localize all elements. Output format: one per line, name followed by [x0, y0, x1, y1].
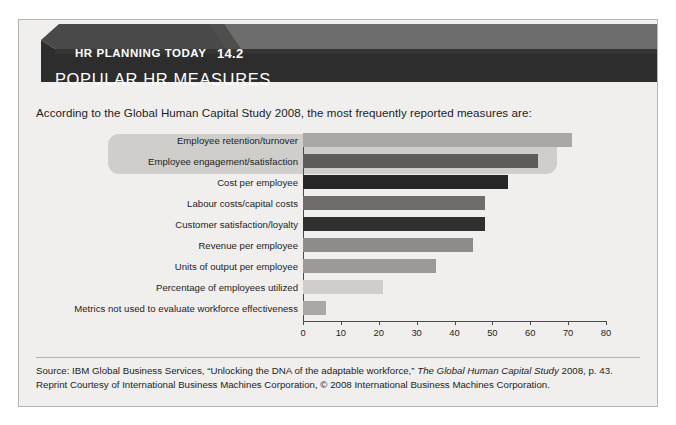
x-axis-tick-label: 10 [336, 327, 346, 338]
bar-track [303, 298, 636, 318]
x-axis-tick [341, 321, 342, 325]
x-axis-tick [379, 321, 380, 325]
x-axis-tick-label: 40 [449, 327, 459, 338]
x-axis-tick [417, 321, 418, 325]
x-axis-tick [568, 321, 569, 325]
bar-row: Metrics not used to evaluate workforce e… [36, 298, 636, 318]
bar-row-label: Revenue per employee [36, 240, 303, 251]
page-root: HR PLANNING TODAY 14.2 POPULAR HR MEASUR… [0, 0, 676, 425]
source-divider [36, 357, 640, 358]
bar-row-label: Employee retention/turnover [36, 135, 303, 146]
x-axis-tick-label: 80 [601, 327, 611, 338]
x-axis-tick-label: 50 [487, 327, 497, 338]
source-prefix: Source: IBM Global Business Services, “U… [36, 365, 417, 376]
x-axis-tick-label: 0 [300, 327, 305, 338]
bar-row-label: Cost per employee [36, 177, 303, 188]
bar [303, 196, 485, 210]
bar-row: Units of output per employee [36, 256, 636, 276]
x-axis-tick [303, 321, 304, 325]
bar-track [303, 193, 636, 213]
bar-track [303, 151, 636, 171]
x-axis-tick [492, 321, 493, 325]
banner-number: 14.2 [217, 46, 244, 61]
bar-track [303, 235, 636, 255]
bar-rows: Employee retention/turnoverEmployee enga… [36, 130, 636, 319]
bar-track [303, 277, 636, 297]
header-banner: HR PLANNING TODAY 14.2 POPULAR HR MEASUR… [19, 20, 658, 83]
banner-eyebrow: HR PLANNING TODAY [75, 47, 206, 59]
bar-row-label: Units of output per employee [36, 261, 303, 272]
bar-row-label: Customer satisfaction/loyalty [36, 219, 303, 230]
bar-row-label: Labour costs/capital costs [36, 198, 303, 209]
bar-track [303, 214, 636, 234]
intro-text: According to the Global Human Capital St… [36, 106, 532, 119]
bar-track [303, 256, 636, 276]
page-title: POPULAR HR MEASURES [55, 70, 271, 89]
bar-track [303, 172, 636, 192]
bar-row-label: Percentage of employees utilized [36, 282, 303, 293]
bar [303, 301, 326, 315]
bar [303, 217, 485, 231]
bar-row: Employee engagement/satisfaction [36, 151, 636, 171]
exhibit-frame: HR PLANNING TODAY 14.2 POPULAR HR MEASUR… [18, 19, 658, 407]
bar-row: Labour costs/capital costs [36, 193, 636, 213]
bar-row: Revenue per employee [36, 235, 636, 255]
bar-row: Employee retention/turnover [36, 130, 636, 150]
x-axis-tick [455, 321, 456, 325]
bar-chart: Employee retention/turnoverEmployee enga… [36, 130, 636, 345]
bar [303, 175, 508, 189]
x-axis-tick [606, 321, 607, 325]
x-axis-tick-label: 30 [411, 327, 421, 338]
x-axis-tick [530, 321, 531, 325]
bar [303, 133, 572, 147]
bar [303, 259, 436, 273]
bar-row: Cost per employee [36, 172, 636, 192]
source-title: The Global Human Capital Study [417, 365, 559, 376]
bar-row-label: Employee engagement/satisfaction [36, 156, 303, 167]
bar [303, 238, 473, 252]
bar [303, 154, 538, 168]
bar-row-label: Metrics not used to evaluate workforce e… [36, 303, 303, 314]
x-axis: 01020304050607080 [303, 321, 623, 345]
source-note: Source: IBM Global Business Services, “U… [36, 364, 642, 391]
bar-row: Customer satisfaction/loyalty [36, 214, 636, 234]
x-axis-tick-label: 70 [563, 327, 573, 338]
bar-track [303, 130, 636, 150]
bar-row: Percentage of employees utilized [36, 277, 636, 297]
x-axis-tick-label: 60 [525, 327, 535, 338]
bar [303, 280, 383, 294]
x-axis-tick-label: 20 [374, 327, 384, 338]
